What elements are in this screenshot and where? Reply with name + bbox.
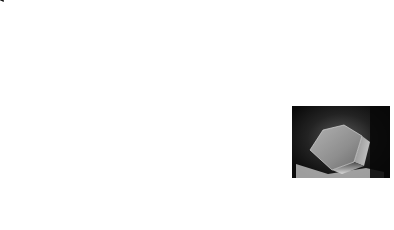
sem-micrograph xyxy=(292,106,390,178)
sem-micrograph-content xyxy=(292,106,390,178)
sem-data-panel xyxy=(370,106,390,178)
figure-canvas xyxy=(0,0,394,230)
